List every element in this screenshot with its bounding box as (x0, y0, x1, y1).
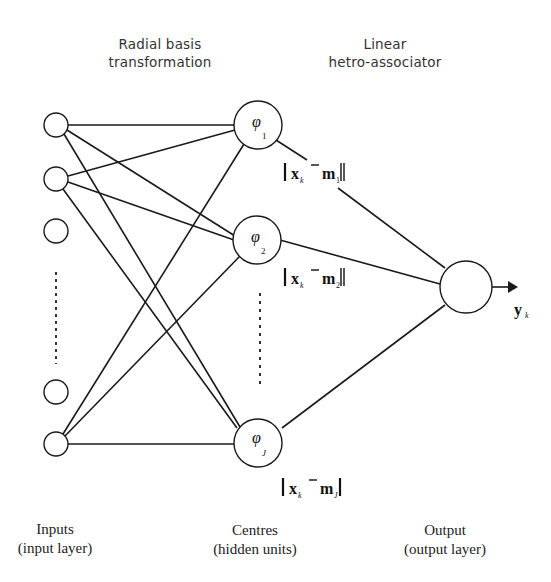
input-node (44, 219, 68, 243)
svg-text:k: k (300, 281, 304, 290)
header-radial-basis-line2: transformation (95, 53, 225, 71)
svg-text:1: 1 (336, 176, 340, 185)
label-centres: Centres (hidden units) (195, 521, 315, 559)
label-inputs: Inputs (input layer) (5, 520, 105, 558)
output-arrow-icon (508, 281, 518, 293)
phi-symbol-2: φ (251, 228, 260, 246)
input-layer (44, 113, 68, 456)
svg-text:x: x (291, 165, 299, 182)
label-centres-title: Centres (195, 521, 315, 540)
svg-text:m: m (322, 165, 336, 182)
header-radial-basis-line1: Radial basis (95, 35, 225, 53)
input-node (44, 380, 68, 404)
label-inputs-sub: (input layer) (5, 539, 105, 558)
edge-h1-out-a (276, 140, 307, 160)
edge-hJ-out (282, 305, 445, 428)
edge-in1-h2 (67, 130, 235, 236)
edge-h1-out-b (338, 188, 445, 268)
svg-text:k: k (298, 491, 302, 500)
svg-text:m: m (322, 270, 336, 287)
phi-symbol-J: φ (252, 429, 261, 447)
output-node (440, 261, 492, 313)
edge-in2-h1 (68, 130, 235, 176)
header-radial-basis: Radial basis transformation (95, 35, 225, 71)
label-output: Output (output layer) (390, 521, 500, 559)
rbf-network-diagram: φ 1 φ 2 φ J x k m 1 x k m 2 x k m J y k (0, 0, 551, 582)
phi-symbol-1: φ (252, 113, 261, 131)
svg-text:2: 2 (336, 281, 340, 290)
norm-label-2: x k m 2 (285, 268, 344, 290)
hidden-layer (233, 101, 282, 467)
norm-label-J: x k m J (283, 478, 340, 500)
header-linear-line2: hetro-associator (310, 53, 460, 71)
input-node (44, 432, 68, 456)
svg-text:k: k (300, 176, 304, 185)
norm-label-1: x k m 1 (285, 163, 344, 185)
header-linear-associator: Linear hetro-associator (310, 35, 460, 71)
header-linear-line1: Linear (310, 35, 460, 53)
phi-subscript-2: 2 (261, 246, 266, 256)
output-y-label: y (514, 301, 522, 319)
label-output-title: Output (390, 521, 500, 540)
edge-in1-hJ (64, 134, 240, 427)
svg-text:m: m (320, 480, 334, 497)
svg-text:x: x (289, 480, 297, 497)
edge-inN-h2 (65, 256, 240, 436)
output-y-subscript: k (525, 311, 529, 320)
input-node (44, 113, 68, 137)
svg-text:x: x (291, 270, 299, 287)
label-centres-sub: (hidden units) (195, 540, 315, 559)
label-output-sub: (output layer) (390, 540, 500, 559)
edge-inN-h1 (63, 144, 244, 434)
input-node (44, 167, 68, 191)
label-inputs-title: Inputs (5, 520, 105, 539)
phi-subscript-1: 1 (262, 131, 267, 141)
svg-text:J: J (334, 491, 338, 500)
